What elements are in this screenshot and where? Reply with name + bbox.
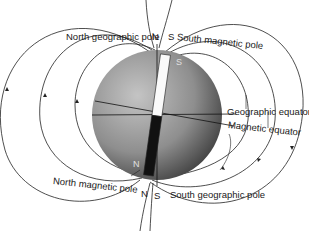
- label-north-geographic-pole: North geographic pole: [66, 32, 159, 42]
- label-geographic-equator: Geographic equator: [227, 107, 309, 117]
- pole-letter-top-s: S: [168, 32, 174, 42]
- pole-letter-bottom-s: S: [154, 191, 160, 201]
- label-south-geographic-pole: South geographic pole: [170, 190, 265, 200]
- pole-letter-top-n: N: [152, 32, 159, 42]
- magnet-pole-n: N: [133, 160, 140, 169]
- magnetic-field-diagram: North geographic pole N S South magnetic…: [0, 0, 309, 231]
- field-arrows-right: [221, 146, 294, 170]
- magnet-pole-s: S: [176, 58, 182, 67]
- pole-letter-bottom-n: N: [141, 189, 148, 199]
